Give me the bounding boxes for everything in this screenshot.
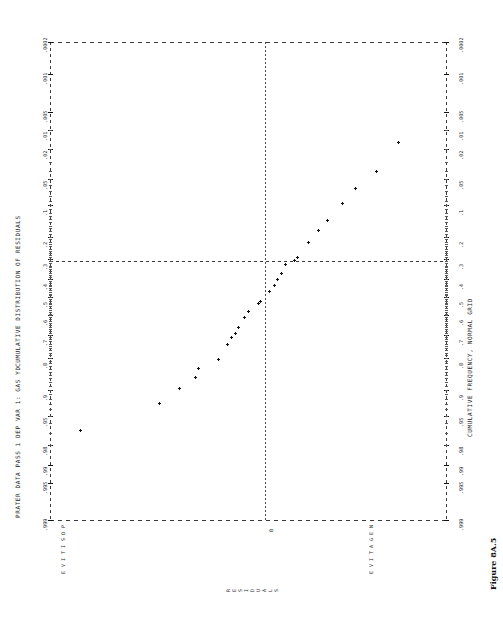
axis-minor-tick	[445, 279, 448, 280]
axis-tick-label: .8	[42, 363, 48, 369]
axis-tick-label: .995	[458, 481, 464, 494]
axis-minor-tick	[445, 350, 448, 351]
axis-minor-tick	[49, 372, 52, 373]
axis-minor-tick	[49, 344, 52, 345]
axis-minor-tick	[445, 281, 448, 282]
axis-minor-tick	[445, 378, 448, 379]
axis-minor-tick	[49, 253, 52, 254]
label-letter: E	[369, 570, 374, 573]
axis-tick	[48, 112, 53, 113]
axis-minor-tick	[445, 344, 448, 345]
axis-minor-tick	[445, 209, 448, 210]
axis-minor-tick	[49, 196, 52, 197]
axis-minor-tick	[445, 361, 448, 362]
axis-minor-tick	[49, 317, 52, 318]
data-point	[234, 332, 237, 335]
label-negative: NEGATIVE	[370, 524, 373, 576]
axis-minor-tick	[49, 231, 52, 232]
axis-minor-tick	[49, 363, 52, 364]
axis-minor-tick	[49, 378, 52, 379]
data-point	[194, 376, 197, 379]
data-point	[237, 326, 240, 329]
axis-minor-tick	[445, 355, 448, 356]
axis-minor-tick	[445, 191, 448, 192]
label-letter: S	[61, 538, 66, 541]
axis-tick-label: .95	[458, 417, 464, 426]
label-letter: A	[369, 544, 374, 547]
label-letter: O	[61, 531, 66, 534]
frame-top	[50, 42, 446, 43]
label-letter: T	[369, 551, 374, 554]
axis-minor-tick	[49, 409, 52, 410]
axis-tick-label: .02	[458, 151, 464, 160]
axis-minor-tick	[445, 372, 448, 373]
axis-minor-tick	[49, 394, 52, 395]
axis-minor-tick	[49, 399, 52, 400]
axis-tick	[444, 112, 449, 113]
axis-minor-tick	[49, 216, 52, 217]
label-letter: T	[61, 551, 66, 554]
axis-minor-tick	[445, 231, 448, 232]
axis-minor-tick	[445, 348, 448, 349]
axis-minor-tick	[49, 369, 52, 370]
label-zero: 0	[268, 529, 274, 532]
axis-minor-tick	[49, 171, 52, 172]
axis-tick-label: .98	[458, 447, 464, 456]
axis-minor-tick	[445, 257, 448, 258]
axis-minor-tick	[445, 201, 448, 202]
axis-minor-tick	[445, 253, 448, 254]
axis-tick	[48, 42, 53, 43]
axis-minor-tick	[445, 226, 448, 227]
axis-minor-tick	[49, 423, 52, 424]
axis-minor-tick	[445, 366, 448, 367]
axis-minor-tick	[445, 249, 448, 250]
axis-tick-label: .95	[42, 417, 48, 426]
axis-minor-tick	[49, 390, 52, 391]
axis-tick-label: .99	[42, 467, 48, 476]
label-letter: S	[274, 589, 279, 592]
axis-minor-tick	[445, 341, 448, 342]
axis-tick	[48, 520, 53, 521]
axis-minor-tick	[49, 162, 52, 163]
axis-minor-tick	[445, 353, 448, 354]
zero-residual-line	[265, 42, 266, 520]
axis-minor-tick	[49, 266, 52, 267]
axis-tick-label: .3	[458, 264, 464, 270]
header-left-title: PRATER DATA PASS 1 DEP VAR 1: GAS YD	[14, 366, 21, 518]
axis-minor-tick	[49, 375, 52, 376]
frame-bottom	[50, 520, 446, 521]
axis-minor-tick	[49, 348, 52, 349]
axis-minor-tick	[49, 346, 52, 347]
axis-tick-label: .05	[42, 180, 48, 189]
axis-minor-tick	[49, 312, 52, 313]
axis-tick-label: .6	[42, 320, 48, 326]
axis-tick-label: .2	[42, 241, 48, 247]
axis-minor-tick	[49, 191, 52, 192]
axis-minor-tick	[49, 386, 52, 387]
axis-minor-tick	[445, 269, 448, 270]
axis-tick-label: .999	[458, 519, 464, 532]
axis-tick	[48, 74, 53, 75]
axis-minor-tick	[49, 335, 52, 336]
axis-minor-tick	[445, 327, 448, 328]
axis-tick-label: .005	[42, 110, 48, 123]
axis-tick-label: .005	[458, 110, 464, 123]
label-letter: I	[61, 544, 66, 547]
axis-minor-tick	[445, 394, 448, 395]
axis-minor-tick	[445, 283, 448, 284]
label-letter: I	[244, 589, 249, 592]
data-point	[397, 141, 400, 144]
axis-minor-tick	[49, 222, 52, 223]
label-letter: I	[369, 557, 374, 560]
axis-minor-tick	[445, 335, 448, 336]
axis-minor-tick	[49, 445, 52, 446]
axis-minor-tick	[49, 213, 52, 214]
axis-minor-tick	[49, 237, 52, 238]
axis-minor-tick	[445, 331, 448, 332]
data-point	[307, 241, 310, 244]
axis-tick-label: .99	[458, 467, 464, 476]
data-point	[354, 187, 357, 190]
data-point	[317, 229, 320, 232]
axis-minor-tick	[445, 259, 448, 260]
axis-minor-tick	[445, 271, 448, 272]
